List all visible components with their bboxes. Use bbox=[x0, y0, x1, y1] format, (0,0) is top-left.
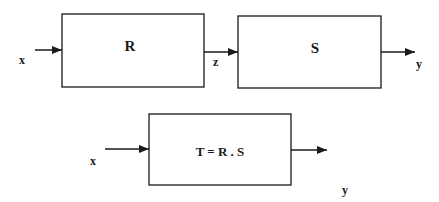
block-t-label: T = R . S bbox=[196, 144, 245, 159]
output-label-y-bottom: y bbox=[342, 183, 348, 197]
block-s-label: S bbox=[311, 40, 319, 56]
output-label-y-top: y bbox=[416, 57, 422, 71]
block-s bbox=[238, 16, 381, 88]
intermediate-label-z: z bbox=[213, 55, 219, 69]
bottom-equivalent-system: x T = R . S y bbox=[90, 114, 348, 197]
block-r-label: R bbox=[125, 38, 136, 54]
input-label-x-top: x bbox=[19, 53, 25, 67]
input-label-x-bottom: x bbox=[90, 154, 96, 168]
top-series-system: x R z S y bbox=[19, 14, 422, 88]
block-diagram: x R z S y x T = R . S y bbox=[0, 0, 439, 202]
